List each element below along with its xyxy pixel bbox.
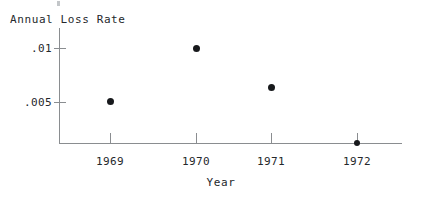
data-point-1970 [193, 45, 200, 52]
y-axis-line [59, 28, 60, 144]
data-point-1971 [268, 84, 275, 91]
x-tick-mark-1 [196, 133, 197, 144]
scatter-plot-figure: Annual Loss Rate .01 .005 1969 1970 1971… [0, 0, 422, 200]
x-tick-label-1970: 1970 [174, 155, 218, 168]
x-tick-label-1972: 1972 [335, 155, 379, 168]
y-tick-mark-0 [54, 48, 66, 49]
x-tick-label-1971: 1971 [249, 155, 293, 168]
data-point-1969 [107, 98, 114, 105]
y-tick-label-0: .01 [18, 42, 52, 55]
x-axis-title: Year [207, 176, 236, 189]
y-tick-label-1: .005 [11, 96, 52, 109]
y-axis-arrow-cap-icon [57, 1, 60, 6]
data-point-1972 [354, 140, 360, 146]
x-tick-mark-2 [271, 133, 272, 144]
y-axis-title: Annual Loss Rate [10, 13, 126, 26]
y-tick-mark-1 [54, 102, 66, 103]
x-tick-mark-0 [110, 133, 111, 144]
x-tick-label-1969: 1969 [88, 155, 132, 168]
x-axis-title-wrap: Year [0, 176, 422, 189]
